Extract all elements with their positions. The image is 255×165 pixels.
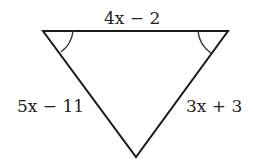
top-side-label: 4x − 2 — [104, 10, 160, 27]
angle-mark-top-right — [198, 31, 211, 53]
right-side-label: 3x + 3 — [186, 98, 242, 115]
left-side-label: 5x − 11 — [17, 98, 84, 115]
triangle — [43, 31, 228, 157]
angle-mark-top-left — [61, 31, 73, 52]
